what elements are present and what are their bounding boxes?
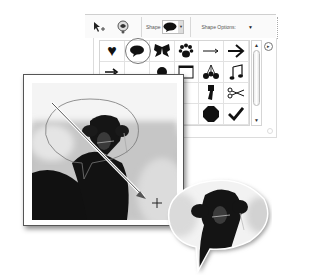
divider (141, 17, 142, 37)
camel-photo[interactable] (32, 83, 177, 220)
shape-pushpin[interactable] (199, 83, 224, 104)
divider (190, 17, 191, 37)
chevron-down-icon[interactable]: ▼ (248, 24, 253, 30)
custom-shape-tool-icon[interactable] (91, 19, 107, 35)
shape-speech-bubble[interactable] (125, 41, 150, 62)
clipped-result-bubble (160, 175, 272, 275)
shape-bold-arrow[interactable] (224, 41, 249, 62)
shape-music-note[interactable] (224, 62, 249, 83)
speech-bubble-icon (129, 45, 145, 57)
shape-cherries[interactable] (199, 62, 224, 83)
scroll-thumb[interactable] (253, 50, 260, 106)
shape-label: Shape (146, 24, 160, 30)
octagon-icon (202, 105, 220, 123)
shape-picker-dropdown[interactable]: ▼ (162, 20, 184, 34)
panel-edge (277, 17, 278, 39)
shape-thin-arrow[interactable] (199, 41, 224, 62)
thin-arrow-icon (202, 47, 220, 55)
pushpin-icon (205, 85, 217, 101)
cherries-icon (202, 64, 220, 80)
scroll-down-arrow[interactable]: ▼ (252, 116, 261, 124)
checkmark-icon (228, 107, 244, 121)
resize-grip[interactable] (267, 128, 273, 134)
shape-options-bar: Shape ▼ Shape Options: ▼ (85, 14, 276, 38)
shape-octagon[interactable] (199, 104, 224, 125)
chevron-down-icon: ▼ (178, 21, 183, 33)
paw-print-icon (178, 43, 194, 59)
shape-checkmark[interactable] (224, 104, 249, 125)
shape-paw-print[interactable] (175, 41, 200, 62)
scissors-icon (227, 87, 245, 99)
butterfly-icon (153, 44, 171, 58)
shape-heart[interactable]: ♥ (100, 41, 125, 62)
shape-color-icon[interactable] (115, 19, 131, 35)
shape-scissors[interactable] (224, 83, 249, 104)
music-note-icon (229, 64, 243, 80)
shape-butterfly[interactable] (150, 41, 175, 62)
bold-arrow-icon (227, 44, 245, 58)
scroll-up-arrow[interactable]: ▲ (252, 41, 261, 49)
speech-bubble-icon (163, 22, 177, 32)
speech-bubble-clip-image (160, 175, 272, 275)
shape-grid-scrollbar[interactable]: ▲ ▼ (251, 40, 262, 126)
shape-options-button[interactable]: Shape Options: (201, 24, 235, 30)
camel-image (32, 83, 177, 220)
panel-menu-flyout-button[interactable]: ▸ (264, 42, 273, 51)
